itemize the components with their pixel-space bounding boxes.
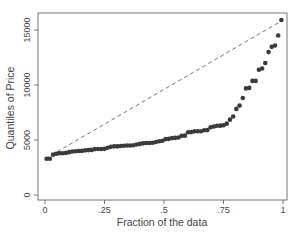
y-axis-label: Quantiles of Price — [4, 66, 16, 149]
data-point — [279, 18, 284, 23]
data-point — [183, 133, 188, 138]
data-point — [263, 61, 268, 66]
y-tick-label: 0 — [22, 192, 32, 197]
x-tick-label: .25 — [98, 205, 111, 215]
x-tick-label: 0 — [42, 205, 47, 215]
y-tick-label: 15000 — [22, 17, 32, 42]
x-tick-label: .5 — [160, 205, 168, 215]
data-point — [231, 114, 236, 119]
y-tick-label: 5000 — [22, 130, 32, 150]
data-point — [253, 79, 258, 84]
x-tick-label: 1 — [280, 205, 285, 215]
data-point — [276, 33, 281, 38]
x-axis: 0.25.5.751 — [42, 200, 285, 215]
plot-frame — [38, 13, 287, 200]
data-point — [260, 66, 265, 71]
data-point — [247, 86, 252, 91]
data-point — [266, 50, 271, 55]
data-point — [237, 103, 242, 108]
data-point — [240, 96, 245, 101]
quantile-plot: 050001000015000 0.25.5.751 Fraction of t… — [0, 0, 305, 238]
x-axis-label: Fraction of the data — [117, 216, 208, 228]
x-tick-label: .75 — [217, 205, 230, 215]
data-point — [48, 156, 53, 161]
y-axis: 050001000015000 — [22, 17, 38, 197]
data-point — [273, 43, 278, 48]
data-point — [234, 107, 239, 112]
data-point — [224, 121, 229, 126]
y-tick-label: 10000 — [22, 72, 32, 97]
